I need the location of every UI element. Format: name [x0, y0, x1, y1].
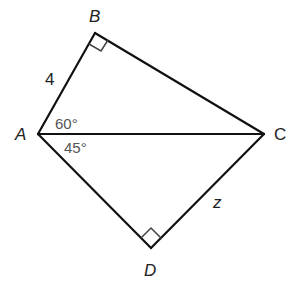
right-angle-mark-b: [89, 40, 108, 51]
vertex-label-d: D: [144, 261, 156, 280]
side-label-ab: 4: [45, 70, 54, 89]
segment-dc: [151, 134, 264, 248]
angle-label-bac: 60°: [55, 115, 78, 132]
segment-ad: [38, 134, 151, 248]
segment-bc: [95, 33, 264, 134]
vertex-label-c: C: [274, 125, 286, 144]
geometry-diagram: B A C D 4 z 60° 45°: [0, 0, 303, 297]
angle-label-cad: 45°: [64, 139, 87, 156]
vertex-label-a: A: [14, 125, 26, 144]
side-label-dc: z: [212, 193, 222, 212]
vertex-label-b: B: [89, 7, 100, 26]
right-angle-mark-d: [141, 228, 161, 238]
